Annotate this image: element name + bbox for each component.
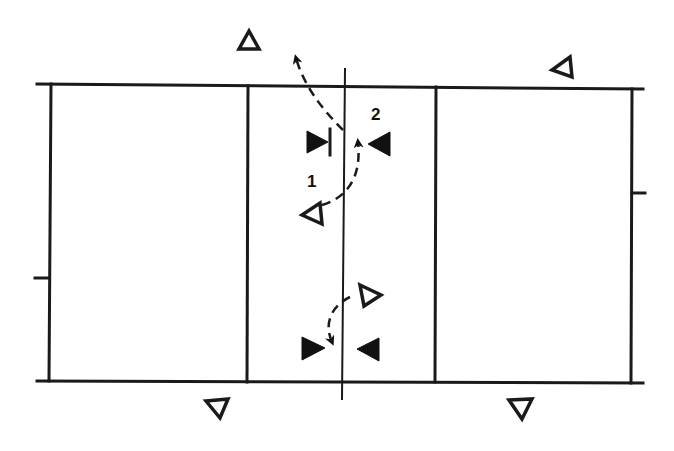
- player-open-mid-left-icon: [302, 203, 322, 224]
- court: [35, 68, 645, 400]
- player-open-top-left-icon: [239, 31, 259, 49]
- path-1-arrow: [322, 142, 359, 205]
- blocker-top-right-icon: [368, 132, 390, 156]
- blocker-top-left-icon: [307, 131, 328, 153]
- left-attack-line: [247, 86, 248, 382]
- court-bottom-sideline: [37, 381, 643, 383]
- court-right-endline: [631, 89, 632, 383]
- player-open-lower-right-icon: [360, 285, 381, 306]
- volleyball-court-diagram: 1 2: [0, 0, 674, 451]
- path-label-2: 2: [371, 105, 380, 124]
- path-label-1: 1: [307, 172, 316, 191]
- player-open-bottom-left-icon: [206, 399, 228, 418]
- movement-paths: [296, 58, 359, 342]
- blockers: [302, 129, 390, 361]
- blocker-bottom-right-icon: [357, 338, 379, 361]
- path-3-arrow: [329, 297, 350, 342]
- right-attack-line: [435, 87, 436, 382]
- court-left-endline: [49, 84, 51, 381]
- net-line: [342, 68, 345, 400]
- player-open-bottom-right-icon: [509, 399, 532, 419]
- court-top-sideline: [37, 84, 643, 89]
- path-2-arrow: [296, 58, 343, 130]
- player-open-top-right-icon: [552, 57, 572, 77]
- blocker-bottom-left-icon: [302, 337, 325, 360]
